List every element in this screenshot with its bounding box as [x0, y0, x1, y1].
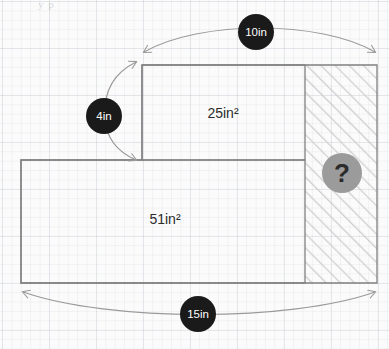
top-dimension-label: 10in — [245, 26, 267, 38]
upper-area-label: 25in² — [207, 105, 238, 121]
bottom-dimension-label: 15in — [187, 308, 209, 320]
lower-area-label: 51in² — [149, 211, 180, 227]
figure-canvas: y p 10in 4in — [0, 0, 389, 349]
unknown-area-label: ? — [334, 158, 350, 188]
geometry-diagram: 10in 4in 15in ? 25in² 51in² — [0, 0, 389, 349]
left-dimension-label: 4in — [96, 110, 111, 122]
